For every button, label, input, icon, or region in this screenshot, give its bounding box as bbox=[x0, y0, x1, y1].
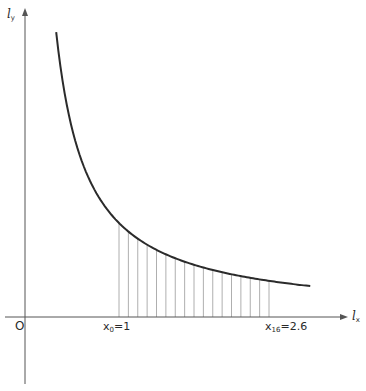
shaded-area-partitions bbox=[119, 223, 269, 317]
y-axis-arrow-icon bbox=[22, 8, 28, 16]
x16-value: =2.6 bbox=[280, 320, 307, 333]
origin-label: O bbox=[15, 320, 24, 332]
x-axis-label-sub: x bbox=[356, 316, 360, 324]
x0-value: =1 bbox=[114, 320, 130, 333]
x-axis-label: lx bbox=[352, 310, 360, 324]
hyperbola-figure bbox=[0, 0, 366, 391]
x0-annotation: x0=1 bbox=[103, 321, 130, 334]
y-axis-label-sub: y bbox=[11, 14, 15, 22]
hyperbola-curve bbox=[56, 32, 310, 286]
y-axis-label: ly bbox=[7, 8, 15, 22]
x16-annotation: x16=2.6 bbox=[265, 321, 307, 334]
x-axis-arrow-icon bbox=[340, 314, 348, 320]
